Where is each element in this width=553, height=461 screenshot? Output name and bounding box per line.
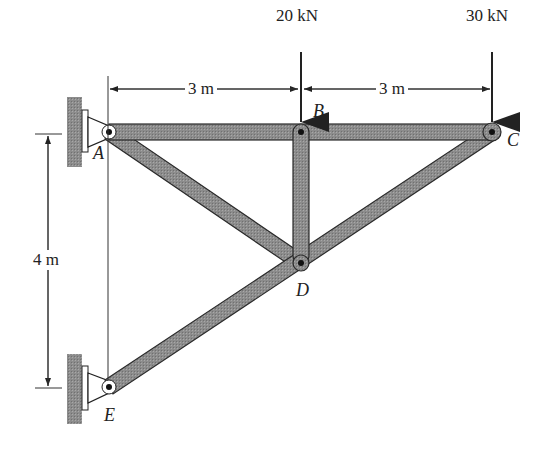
node-label-D: D bbox=[296, 280, 309, 301]
truss-members bbox=[105, 123, 501, 394]
member-AD bbox=[105, 125, 305, 270]
dim-label-AB: 3 m bbox=[185, 79, 217, 99]
node-label-A: A bbox=[93, 143, 104, 164]
node-label-E: E bbox=[104, 405, 115, 426]
dim-label-AE: 4 m bbox=[30, 250, 62, 270]
truss-diagram bbox=[0, 0, 553, 461]
member-BD bbox=[293, 124, 309, 264]
load-label-B: 20 kN bbox=[276, 6, 318, 26]
node-label-B: B bbox=[313, 101, 324, 122]
load-label-C: 30 kN bbox=[466, 6, 508, 26]
node-label-C: C bbox=[507, 130, 519, 151]
dim-label-BC: 3 m bbox=[376, 79, 408, 99]
